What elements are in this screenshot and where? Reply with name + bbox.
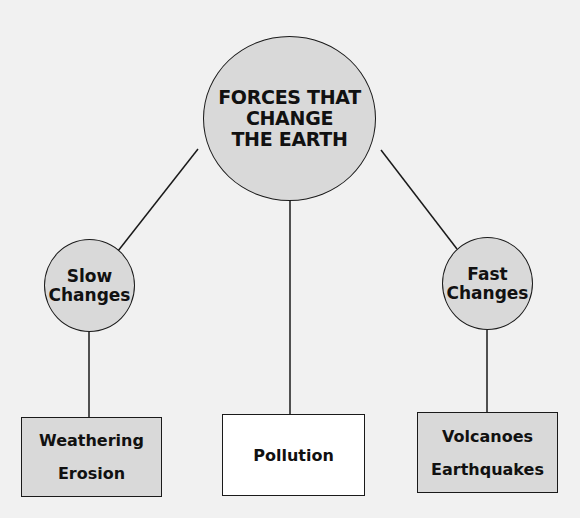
- fast-changes-node: Fast Changes: [442, 237, 533, 330]
- main-topic-label: FORCES THAT CHANGE THE EARTH: [218, 87, 361, 150]
- example-pollution: Pollution: [253, 446, 334, 465]
- example-weathering: Weathering: [39, 431, 144, 450]
- slow-changes-examples-box: Weathering Erosion: [21, 417, 162, 497]
- pollution-box: Pollution: [222, 414, 365, 496]
- connector-main-to-fast: [381, 150, 457, 249]
- example-erosion: Erosion: [58, 464, 125, 483]
- main-topic-node: FORCES THAT CHANGE THE EARTH: [203, 36, 376, 201]
- example-volcanoes: Volcanoes: [442, 427, 533, 446]
- connector-main-to-slow: [118, 149, 198, 251]
- fast-changes-label: Fast Changes: [447, 265, 529, 302]
- slow-changes-label: Slow Changes: [49, 267, 131, 304]
- fast-changes-examples-box: Volcanoes Earthquakes: [417, 412, 558, 493]
- slow-changes-node: Slow Changes: [44, 239, 135, 332]
- example-earthquakes: Earthquakes: [431, 460, 544, 479]
